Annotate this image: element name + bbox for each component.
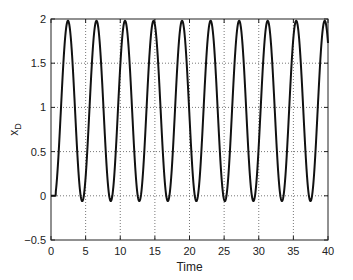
x-tick-label: 10 (114, 245, 126, 257)
y-tick-label: 2 (40, 13, 46, 25)
y-tick-label: 1.5 (31, 57, 46, 69)
x-tick-label: 20 (183, 245, 195, 257)
x-tick-label: 0 (48, 245, 54, 257)
series-line-xD (51, 21, 328, 201)
x-axis-label: Time (176, 260, 203, 274)
y-axis-label-subscript: D (13, 123, 23, 130)
x-tick-label: 15 (149, 245, 161, 257)
x-tick-label: 30 (253, 245, 265, 257)
y-axis-label: xD (7, 123, 23, 136)
y-tick-label: 1 (40, 101, 46, 113)
y-tick-label: −0.5 (24, 234, 46, 246)
y-tick-label: 0 (40, 190, 46, 202)
line-chart: 0510152025303540−0.500.511.52 Time xD (0, 0, 353, 280)
y-tick-label: 0.5 (31, 146, 46, 158)
x-tick-label: 35 (287, 245, 299, 257)
x-tick-label: 5 (83, 245, 89, 257)
x-tick-label: 40 (322, 245, 334, 257)
x-tick-label: 25 (218, 245, 230, 257)
